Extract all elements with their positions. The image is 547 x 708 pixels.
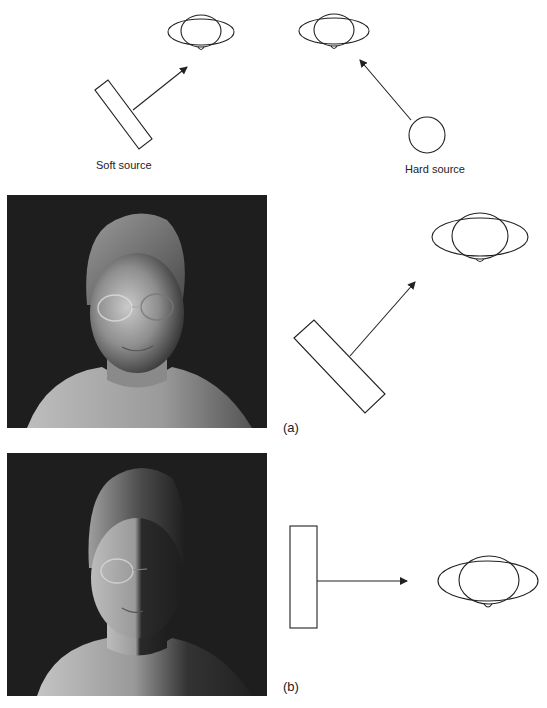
head-topview-icon bbox=[432, 213, 528, 262]
portrait-photo-a bbox=[7, 195, 267, 428]
light-direction-arrow bbox=[360, 60, 411, 120]
hard-source-label: Hard source bbox=[405, 163, 465, 175]
head-topview-icon bbox=[299, 14, 369, 49]
portrait-photo-b bbox=[7, 453, 267, 696]
portrait-image-a bbox=[7, 195, 267, 428]
light-direction-arrow bbox=[350, 282, 415, 356]
soft-source-panel-icon bbox=[95, 80, 152, 149]
soft-source-label: Soft source bbox=[96, 159, 152, 171]
soft-source-panel-icon bbox=[294, 320, 385, 413]
soft-source-panel-icon bbox=[290, 526, 317, 628]
light-direction-arrow bbox=[133, 67, 187, 110]
panel-label-b: (b) bbox=[283, 679, 299, 694]
head-topview-icon bbox=[168, 15, 234, 50]
panel-label-a: (a) bbox=[283, 420, 299, 435]
hard-source-lamp-icon bbox=[409, 117, 445, 153]
head-topview-icon bbox=[438, 556, 538, 607]
portrait-image-b bbox=[7, 453, 267, 696]
